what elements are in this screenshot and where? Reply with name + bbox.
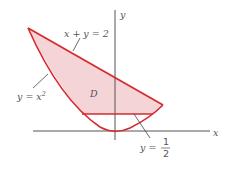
fraction-denominator: 2 (163, 148, 169, 159)
region-diagram: y x D x + y = 2 y = x2 y = 1 2 (0, 0, 227, 170)
fraction-numerator: 1 (163, 136, 169, 147)
region-label: D (89, 88, 98, 99)
equation-parabola-exponent: 2 (41, 90, 46, 98)
x-axis-label: x (213, 127, 219, 138)
equation-parabola-label: y = x2 (16, 90, 46, 102)
leader-line-parabola (33, 74, 48, 88)
equation-horizontal-prefix: y = (139, 142, 156, 153)
y-axis-label: y (119, 9, 126, 20)
region-d-fill (28, 28, 163, 114)
equation-line-label: x + y = 2 (64, 28, 109, 39)
leader-line-x-plus-y (73, 38, 80, 51)
equation-parabola-base: y = x (16, 91, 42, 102)
